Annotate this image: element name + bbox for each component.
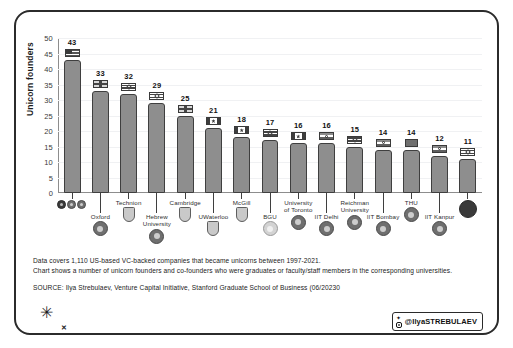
bar[interactable]: [92, 91, 109, 193]
chart-card: Unicorn founders 50454035302520151050 43…: [14, 10, 499, 335]
bar-slot: [233, 137, 250, 193]
iit-kanpur-crest-icon: [432, 221, 447, 236]
bar-flag-emblem: [90, 80, 110, 88]
handle-text: @IlyaSTREBULAEV: [405, 317, 477, 326]
bar-flag-emblem: [345, 136, 365, 144]
flag-il-icon: [263, 129, 278, 137]
bar-value-label: 17: [260, 118, 280, 127]
plot-area: 50454035302520151050 4333322925211817161…: [58, 38, 482, 193]
y-tick-label: 25: [44, 111, 53, 120]
star-of-david-icon: [126, 84, 132, 90]
bar-value-label: 14: [401, 128, 421, 137]
bar-flag-emblem: [62, 49, 82, 57]
flag-il-icon: [121, 83, 136, 91]
social-handle-badge[interactable]: ✦ @IlyaSTREBULAEV: [392, 312, 483, 331]
gridline: [58, 38, 482, 39]
bar-slot: [148, 103, 165, 193]
bar-value-label: 32: [119, 72, 139, 81]
bar-slot: [346, 147, 363, 194]
hebrew-university-crest-icon: [149, 229, 164, 244]
bar-slot: [205, 128, 222, 193]
bar-slot: [262, 140, 279, 193]
brand-starburst-icon: ✳: [38, 305, 54, 321]
bar-flag-emblem: [401, 139, 421, 147]
crest-circle: [432, 221, 447, 236]
bar-flag-emblem: [232, 126, 252, 134]
bar-flag-emblem: [430, 145, 450, 153]
bar[interactable]: [177, 116, 194, 194]
bar-slot: [403, 150, 420, 193]
bar[interactable]: [64, 60, 81, 193]
bar-slot: [64, 60, 81, 193]
bar-flag-emblem: [373, 139, 393, 147]
flag-uk-icon: [178, 105, 193, 113]
flag-in-icon: [432, 145, 447, 153]
bar-value-label: 33: [90, 69, 110, 78]
bar-value-label: 11: [458, 137, 478, 146]
category-stem: [467, 193, 468, 199]
y-tick-label: 50: [44, 34, 53, 43]
flag-ca-icon: [291, 132, 306, 140]
y-tick-label: 5: [49, 173, 53, 182]
y-tick-label: 15: [44, 142, 53, 151]
bar-value-label: 14: [373, 128, 393, 137]
flag-in-icon: [376, 139, 391, 147]
crest-circle-inner: [437, 226, 443, 232]
flag-il-icon: [347, 136, 362, 144]
social-icons: ✦: [396, 315, 402, 328]
oxford-crest-icon: [93, 221, 108, 236]
bar[interactable]: [403, 150, 420, 193]
bar-flag-emblem: [288, 132, 308, 140]
y-tick-label: 20: [44, 127, 53, 136]
flag-us-icon: [65, 49, 80, 57]
bar[interactable]: [375, 150, 392, 193]
footnote-line-2: Chart shows a number of unicorn founders…: [33, 266, 485, 276]
gridline: [58, 69, 482, 70]
flag-uk-icon: [93, 80, 108, 88]
gridline: [58, 54, 482, 55]
logo-circle: [459, 200, 477, 218]
crest-circle-inner: [380, 226, 386, 232]
y-tick-label: 40: [44, 65, 53, 74]
crest-circle: [149, 229, 164, 244]
bar-slot: [92, 91, 109, 193]
bar-value-label: 29: [147, 81, 167, 90]
bar-flag-emblem: [119, 83, 139, 91]
bar-flag-emblem: [203, 117, 223, 125]
bar[interactable]: [205, 128, 222, 193]
bar-value-label: 25: [175, 94, 195, 103]
bar[interactable]: [459, 159, 476, 193]
bar-flag-emblem: [317, 132, 337, 140]
bar[interactable]: [233, 137, 250, 193]
bar[interactable]: [120, 94, 137, 193]
bar[interactable]: [346, 147, 363, 194]
crest-circle: [376, 221, 391, 236]
iit-bombay-crest-icon: [376, 221, 391, 236]
bar-value-label: 18: [232, 115, 252, 124]
chart-area: Unicorn founders 50454035302520151050 43…: [16, 16, 501, 251]
uwaterloo-crest-icon: [207, 221, 219, 236]
footnotes: Data covers 1,110 US-based VC-backed com…: [33, 256, 485, 276]
flag-ca-icon: [234, 126, 249, 134]
flag-in-icon: [319, 132, 334, 140]
logo-circle: [57, 200, 66, 209]
bar[interactable]: [148, 103, 165, 193]
bar[interactable]: [290, 143, 307, 193]
crest-circle-inner: [97, 226, 103, 232]
y-tick-label: 35: [44, 80, 53, 89]
instagram-icon: [396, 322, 402, 328]
crest-circle: [93, 221, 108, 236]
bar-value-label: 12: [430, 134, 450, 143]
flag-il-icon: [149, 92, 164, 100]
logo-circle-inner: [60, 203, 63, 206]
source-line: SOURCE: Ilya Strebulaev, Venture Capital…: [33, 284, 340, 291]
bar-slot: [318, 143, 335, 193]
bar[interactable]: [431, 156, 448, 193]
bar-flag-emblem: [147, 92, 167, 100]
bar-flag-emblem: [458, 148, 478, 156]
bar-value-label: 21: [203, 106, 223, 115]
category-group-14: [438, 193, 498, 218]
bar[interactable]: [318, 143, 335, 193]
bar[interactable]: [262, 140, 279, 193]
flag-cn-icon: [405, 139, 418, 147]
